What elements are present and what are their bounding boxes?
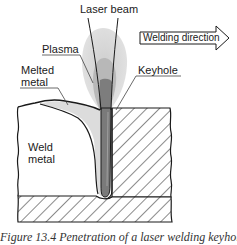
- weld-metal-label-line1: Weld: [28, 141, 53, 153]
- figure-caption: Figure 13.4 Penetration of a laser weldi…: [0, 230, 237, 245]
- weld-metal-label-line2: metal: [28, 153, 55, 165]
- welding-direction-label: Welding direction: [143, 32, 220, 44]
- keyhole-leader-line: [116, 76, 181, 110]
- keyhole-label: Keyhole: [138, 64, 178, 76]
- melted-metal-label-line1: Melted: [21, 64, 54, 76]
- laser-beam-label: Laser beam: [80, 3, 138, 15]
- keyhole-channel: [101, 108, 111, 197]
- melted-metal-label-line2: metal: [21, 76, 48, 88]
- left-break-edge: [17, 107, 18, 196]
- base-metal-right: [112, 108, 172, 197]
- keyhole-core-upper: [99, 79, 112, 110]
- plasma-label: Plasma: [42, 43, 79, 55]
- base-metal-bottom: [18, 196, 172, 222]
